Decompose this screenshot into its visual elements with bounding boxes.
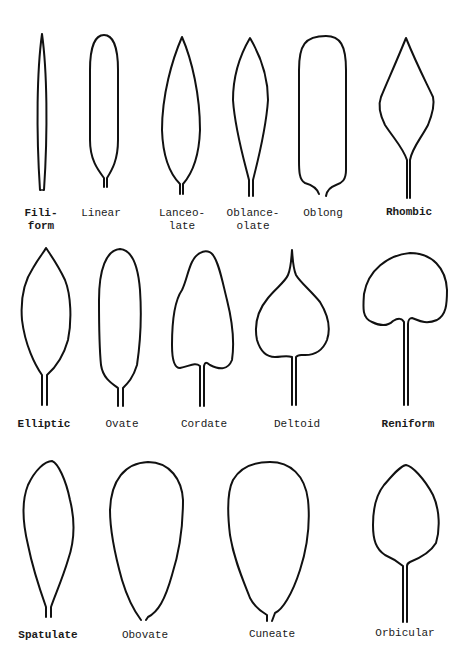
leaf-ovate-shape: [99, 249, 141, 406]
leaf-oblong-shape: [299, 36, 346, 196]
leaf-rhombic-shape: [380, 38, 434, 198]
leaf-cordate-shape: [172, 251, 233, 406]
label-cordate: Cordate: [181, 418, 227, 431]
leaf-shapes-diagram: Fili- form Linear Lanceo- late Oblance- …: [0, 0, 466, 663]
leaf-spatulate-shape: [24, 461, 74, 617]
label-obovate: Obovate: [122, 629, 168, 642]
label-spatulate: Spatulate: [18, 629, 77, 642]
leaf-filiform-shape: [38, 34, 47, 190]
leaf-oblanceolate-shape: [233, 38, 268, 196]
label-deltoid: Deltoid: [274, 418, 320, 431]
label-orbicular: Orbicular: [375, 627, 434, 640]
leaf-lanceolate-shape: [162, 37, 200, 194]
leaf-linear-shape: [90, 35, 118, 187]
label-cuneate: Cuneate: [249, 628, 295, 641]
leaf-obovate-shape: [110, 462, 183, 620]
leaf-deltoid-shape: [256, 250, 329, 405]
label-rhombic: Rhombic: [386, 206, 432, 219]
leaf-cuneate-shape: [228, 462, 308, 621]
label-linear: Linear: [81, 207, 121, 220]
leaf-reniform-shape: [363, 253, 447, 405]
label-elliptic: Elliptic: [18, 418, 71, 431]
label-oblanceolate: Oblance- olate: [227, 207, 280, 233]
label-reniform: Reniform: [382, 418, 435, 431]
label-lanceolate: Lanceo- late: [159, 207, 205, 233]
leaf-outlines: [0, 0, 466, 663]
label-filiform: Fili- form: [24, 207, 57, 233]
label-oblong: Oblong: [303, 207, 343, 220]
leaf-orbicular-shape: [373, 465, 439, 622]
label-ovate: Ovate: [105, 418, 138, 431]
leaf-elliptic-shape: [22, 248, 71, 405]
